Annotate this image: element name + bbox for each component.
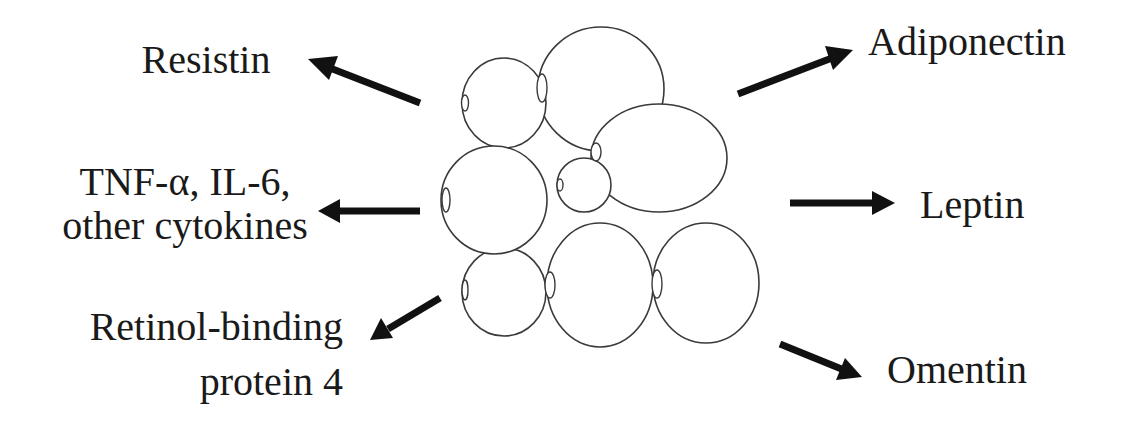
label-rbp4-line2: protein 4 xyxy=(200,359,343,404)
nucleus-e xyxy=(442,188,450,212)
arrow-to-rbp4-icon xyxy=(370,298,440,340)
label-adiponectin: Adiponectin xyxy=(868,19,1066,64)
adipocyte-cell-c xyxy=(591,104,727,212)
label-omentin: Omentin xyxy=(887,347,1027,392)
adipocyte-cell-e xyxy=(441,146,547,254)
arrow-to-adiponectin-icon xyxy=(738,46,853,94)
label-cytokines-line1: TNF-α, IL-6, xyxy=(80,159,291,204)
adipocyte-cell-g xyxy=(547,223,653,347)
adipocyte-cell-a xyxy=(462,58,546,148)
adipocyte-cell-f xyxy=(462,248,546,336)
adipocyte-cell-d xyxy=(557,158,611,212)
label-leptin: Leptin xyxy=(920,182,1024,227)
adipocyte-cell-h xyxy=(653,223,759,343)
arrow-to-leptin-icon xyxy=(790,191,895,215)
arrow-to-resistin-icon xyxy=(308,56,420,103)
arrow-to-omentin-icon xyxy=(780,344,862,380)
arrow-to-cytokines-icon xyxy=(318,199,420,223)
nucleus-d xyxy=(557,179,563,191)
nucleus-h xyxy=(652,270,662,298)
adipokine-diagram: Resistin TNF-α, IL-6, other cytokines Re… xyxy=(0,0,1125,424)
label-cytokines-line2: other cytokines xyxy=(62,203,308,248)
nucleus-f xyxy=(462,280,468,300)
nucleus-a xyxy=(462,95,469,111)
label-rbp4-line1: Retinol-binding xyxy=(90,304,343,349)
nucleus-g xyxy=(545,272,555,298)
nucleus-b xyxy=(537,74,547,102)
label-resistin: Resistin xyxy=(142,37,271,82)
adipocyte-cluster xyxy=(441,27,759,347)
nucleus-c xyxy=(591,143,601,161)
